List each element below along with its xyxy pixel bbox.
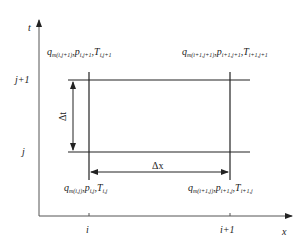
dt-label: Δt	[57, 112, 68, 121]
t-axis-label: t	[28, 22, 31, 33]
tick-label-j1: j+1	[15, 74, 30, 85]
node-top-left: qm(i,j+1),pi,j+1,Ti,j+1	[47, 46, 112, 58]
x-axis-label: x	[282, 226, 286, 237]
diagram-canvas	[0, 0, 307, 243]
tick-label-i1: i+1	[220, 224, 235, 235]
node-bottom-left: qm(i,j),pi,j,Ti,j	[64, 182, 107, 194]
tick-label-j: j	[22, 146, 25, 157]
node-bottom-right: qm(i+1,j),pi+1,j,Ti+1,j	[188, 182, 253, 194]
tick-label-i: i	[86, 224, 89, 235]
node-top-right: qm(i+1,j+1),pi+1,j+1,Ti+1,j+1	[182, 46, 268, 58]
dx-label: Δx	[152, 160, 163, 171]
